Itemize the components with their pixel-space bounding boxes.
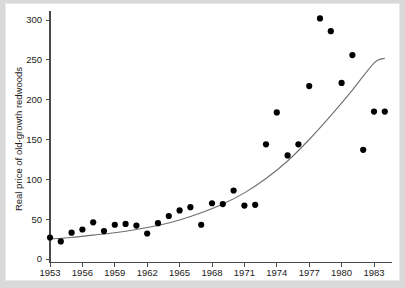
data-point [209, 200, 215, 206]
y-tick-label: 100 [26, 174, 42, 185]
y-tick-label: 300 [26, 14, 42, 25]
y-axis-title: Real price of old-growth redwoods [13, 67, 24, 211]
data-point [123, 221, 129, 227]
fit-curve-group [50, 58, 385, 239]
figure-container: 050100150200250300 195319561959196219651… [0, 0, 405, 288]
data-point [101, 228, 107, 234]
x-tick-label: 1983 [363, 267, 384, 278]
x-tick-label: 1965 [169, 267, 190, 278]
data-point [306, 83, 312, 89]
x-tick-label: 1962 [137, 267, 158, 278]
x-tick-label: 1968 [201, 267, 222, 278]
data-point [79, 226, 85, 232]
data-point [252, 202, 258, 208]
x-tick-label: 1977 [299, 267, 320, 278]
data-point [69, 230, 75, 236]
data-point [166, 213, 172, 219]
data-point [295, 141, 301, 147]
data-point [349, 52, 355, 58]
y-tick-label: 150 [26, 134, 42, 145]
data-point [360, 147, 366, 153]
data-point [187, 204, 193, 210]
y-tick-label: 250 [26, 54, 42, 65]
data-points-group [47, 15, 388, 244]
x-tick-label: 1974 [266, 267, 287, 278]
data-point [241, 203, 247, 209]
y-tick-group: 050100150200250300 [26, 14, 50, 264]
data-point [274, 109, 280, 115]
data-point [47, 234, 53, 240]
x-tick-label: 1956 [72, 267, 93, 278]
data-point [263, 141, 269, 147]
data-point [155, 220, 161, 226]
data-point [382, 109, 388, 115]
data-point [112, 222, 118, 228]
y-tick-label: 50 [31, 214, 42, 225]
x-tick-label: 1980 [331, 267, 352, 278]
data-point [328, 28, 334, 34]
x-tick-label: 1971 [234, 267, 255, 278]
data-point [231, 187, 237, 193]
scatter-chart: 050100150200250300 195319561959196219651… [0, 0, 405, 288]
x-tick-label: 1953 [39, 267, 60, 278]
y-tick-label: 0 [37, 253, 42, 264]
y-tick-label: 200 [26, 94, 42, 105]
data-point [58, 238, 64, 244]
x-tick-group: 1953195619591962196519681971197419771980… [39, 263, 384, 279]
x-axis-group: 1953195619591962196519681971197419771980… [39, 263, 392, 279]
fit-curve-path [50, 58, 385, 239]
data-point [177, 207, 183, 213]
data-point [198, 222, 204, 228]
data-point [144, 230, 150, 236]
data-point [285, 152, 291, 158]
data-point [90, 219, 96, 225]
data-point [317, 15, 323, 21]
data-point [371, 109, 377, 115]
data-point [220, 201, 226, 207]
data-point [133, 222, 139, 228]
data-point [339, 80, 345, 86]
x-tick-label: 1959 [104, 267, 125, 278]
y-axis-group: 050100150200250300 [26, 11, 50, 264]
